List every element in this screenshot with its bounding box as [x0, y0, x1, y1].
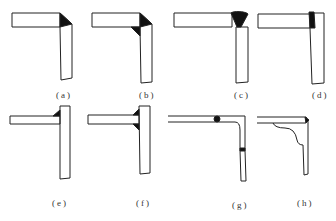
label-h: (h) — [297, 198, 314, 208]
label-f: (f) — [136, 198, 151, 208]
panel-g-drawing — [168, 116, 246, 181]
panel-e-drawing — [10, 106, 70, 179]
label-e: (e) — [52, 198, 68, 208]
label-d: (d) — [312, 90, 329, 100]
panel-b-drawing — [92, 13, 152, 83]
panel-a-drawing — [12, 13, 72, 80]
label-b: (b) — [139, 90, 156, 100]
panel-d-drawing — [258, 12, 324, 84]
label-c: (c) — [234, 90, 250, 100]
panel-f-drawing — [88, 106, 150, 174]
weld-joint-diagram — [0, 0, 336, 221]
panel-h-drawing — [257, 117, 309, 175]
label-a: (a) — [56, 90, 72, 100]
panel-c-drawing — [174, 12, 248, 83]
label-g: (g) — [232, 200, 249, 210]
